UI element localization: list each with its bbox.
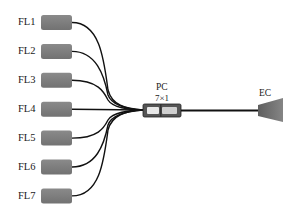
laser-box-fl3 [41, 73, 72, 88]
combiner-label: PC [156, 83, 168, 93]
fl2-label: FL2 [18, 46, 36, 57]
diagram-canvas [0, 0, 293, 214]
laser-box-fl5 [41, 131, 72, 146]
fl6-label: FL6 [18, 162, 36, 173]
fl7-label: FL7 [18, 191, 36, 202]
fiber-laser-combiner-diagram: FL1 FL2 FL3 FL4 FL5 FL6 FL7 PC 7×1 EC [0, 0, 293, 214]
laser-box-fl6 [41, 160, 72, 175]
end-cap-label: EC [259, 89, 271, 99]
fiber-fl7 [72, 110, 143, 196]
fiber-fl1 [72, 23, 143, 111]
laser-box-fl7 [41, 188, 72, 203]
fiber-laser-boxes [41, 15, 72, 203]
combiner-ratio: 7×1 [155, 94, 169, 103]
fiber-fl4 [72, 109, 143, 110]
fl3-label: FL3 [18, 75, 36, 86]
laser-box-fl4 [41, 102, 72, 117]
fl4-label: FL4 [18, 104, 36, 115]
fl5-label: FL5 [18, 133, 36, 144]
laser-box-fl1 [41, 15, 72, 30]
fiber-bundle [72, 23, 143, 196]
fl1-label: FL1 [18, 17, 36, 28]
laser-box-fl2 [41, 44, 72, 59]
end-cap [258, 98, 283, 122]
pump-combiner [143, 104, 181, 117]
